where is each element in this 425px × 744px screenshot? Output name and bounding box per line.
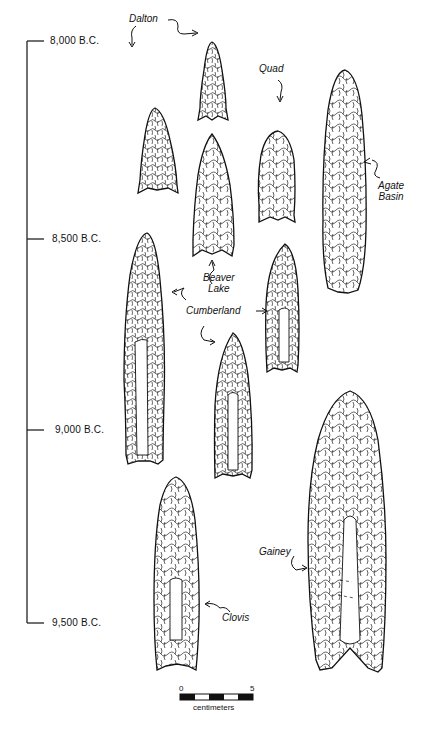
timeline-label-8500: 8,500 B.C. [52,233,101,244]
scale-min-label: 0 [179,684,183,693]
cumberland-point-center [215,333,253,478]
gainey-point [308,391,386,672]
quad-label: Quad [259,63,283,74]
scale-max-label: 5 [250,684,254,693]
agate-basin-label: Agate Basin [378,180,404,202]
agate-basin-label-line2: Basin [378,191,404,202]
dalton-point-lower [138,108,178,193]
gainey-label: Gainey [259,546,291,557]
beaver-lake-label-line2: Lake [203,283,235,294]
diagram-artwork [0,0,425,744]
dalton-point-upper [198,42,228,120]
timeline-label-8000: 8,000 B.C. [50,35,99,46]
dalton-label: Dalton [129,13,158,24]
timeline-label-9500: 9,500 B.C. [52,617,101,628]
clovis-label: Clovis [222,612,249,623]
scale-unit-label: centimeters [193,703,234,712]
cumberland-point-left [124,233,165,464]
cumberland-label: Cumberland [186,305,240,316]
cumberland-point-right [266,244,299,372]
scale-bar [180,694,253,700]
beaver-lake-label-line1: Beaver [203,272,235,283]
quad-point [258,131,295,222]
agate-basin-label-line1: Agate [378,180,404,191]
clovis-point [154,477,199,670]
timeline-axis [27,41,44,623]
beaver-lake-point [193,134,234,256]
agate-basin-point [323,70,366,293]
beaver-lake-label: Beaver Lake [203,272,235,294]
timeline-label-9000: 9,000 B.C. [55,424,104,435]
